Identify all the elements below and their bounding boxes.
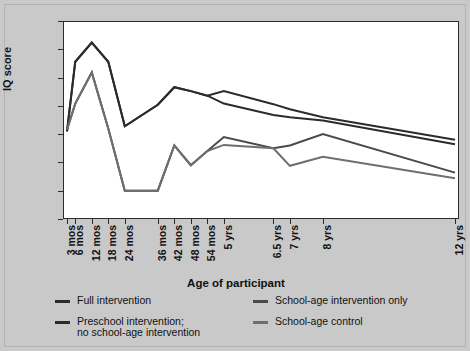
x-axis-tick-label: 5 yrs (222, 225, 234, 250)
legend-swatch-icon (253, 300, 268, 303)
x-axis-tick-mark (125, 219, 126, 224)
y-axis-tick-mark (58, 49, 63, 50)
x-axis-tick-mark (273, 219, 274, 224)
x-axis-tick-mark (207, 219, 208, 224)
legend-item: Preschool intervention;no school-age int… (55, 316, 253, 339)
x-axis-tick-mark (323, 219, 324, 224)
chart-legend: Full interventionSchool-age intervention… (55, 295, 455, 339)
legend-label: Preschool intervention;no school-age int… (77, 316, 200, 339)
x-axis-tick-mark (75, 219, 76, 224)
figure-panel: IQ score 3 mos6 mos12 mos18 mos24 mos36 … (4, 4, 466, 347)
figure-container: IQ score 3 mos6 mos12 mos18 mos24 mos36 … (0, 0, 470, 351)
y-axis-tick-mark (58, 21, 63, 22)
legend-swatch-icon (55, 321, 70, 324)
series-lines (63, 21, 459, 219)
x-axis-tick-label: 7 yrs (288, 225, 300, 250)
x-axis-tick-label: 18 mos (106, 225, 118, 261)
y-axis-tick-mark (58, 134, 63, 135)
x-axis-tick-label: 12 mos (90, 225, 102, 261)
series-line (67, 72, 455, 190)
x-axis-tick-mark (290, 219, 291, 224)
legend-item: School-age control (253, 316, 451, 339)
x-axis-tick-label: 36 mos (156, 225, 168, 261)
x-axis-tick-label: 8 yrs (321, 225, 333, 250)
x-axis-tick-label: 54 mos (205, 225, 217, 261)
y-axis-tick-mark (58, 78, 63, 79)
legend-item: School-age intervention only (253, 295, 451, 307)
x-axis-title: Age of participant (5, 277, 467, 289)
legend-label: School-age control (275, 316, 363, 328)
y-axis-tick-mark (58, 106, 63, 107)
x-axis-tick-label: 12 yrs (453, 225, 465, 255)
legend-label: School-age intervention only (275, 295, 408, 307)
x-axis-tick-mark (158, 219, 159, 224)
x-axis-tick-mark (455, 219, 456, 224)
x-axis-tick-label: 48 mos (189, 225, 201, 261)
x-axis-tick-mark (108, 219, 109, 224)
x-axis-tick-mark (224, 219, 225, 224)
x-axis-tick-mark (191, 219, 192, 224)
x-axis-tick-label: 6.5 yrs (271, 225, 283, 258)
x-axis-tick-mark (174, 219, 175, 224)
y-axis-tick-mark (58, 191, 63, 192)
x-axis-tick-mark (67, 219, 68, 224)
x-axis-tick-label: 42 mos (172, 225, 184, 261)
x-axis-tick-label: 6 mos (73, 225, 85, 255)
y-axis-title: IQ score (1, 47, 13, 91)
series-line (67, 72, 455, 190)
x-axis-tick-label: 24 mos (123, 225, 135, 261)
legend-swatch-icon (253, 321, 268, 324)
legend-item: Full intervention (55, 295, 253, 307)
y-axis-tick-mark (58, 219, 63, 220)
x-axis-tick-mark (92, 219, 93, 224)
y-axis-tick-mark (58, 162, 63, 163)
legend-swatch-icon (55, 300, 70, 303)
plot-area-wrapper: 3 mos6 mos12 mos18 mos24 mos36 mos42 mos… (63, 21, 459, 219)
legend-label: Full intervention (77, 295, 151, 307)
